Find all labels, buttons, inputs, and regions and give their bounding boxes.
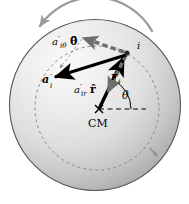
physics-figure-container: i a ′ iθ θ̂ a ′ i a ′ ir r̂ r ′ i θ CM [0, 0, 189, 204]
particle-i-label: i [137, 40, 140, 51]
svg-text:iθ: iθ [60, 42, 67, 50]
svg-text:θ̂: θ̂ [70, 35, 77, 48]
svg-text:′: ′ [50, 72, 52, 81]
particle-i-dot [124, 50, 129, 55]
cm-label: CM [88, 117, 108, 130]
svg-text:a: a [42, 73, 49, 86]
svg-text:r̂: r̂ [90, 83, 96, 96]
svg-text:i: i [118, 78, 120, 86]
svg-text:′: ′ [118, 68, 120, 77]
svg-text:i: i [50, 82, 52, 90]
angle-theta-label: θ [122, 89, 129, 102]
svg-text:ir: ir [81, 90, 87, 98]
